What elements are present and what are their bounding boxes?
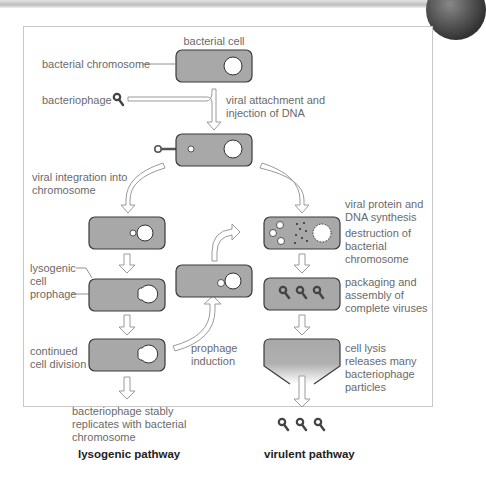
dividing-cell [89,339,165,371]
label-viral-protein-1: viral protein and [345,198,423,210]
infected-cell [155,134,252,166]
label-viral-protein-2: DNA synthesis [345,211,417,223]
label-stable-3: chromosome [72,431,136,443]
label-destruction-2: bacterial [345,240,387,252]
down-arrow [119,377,135,399]
label-lysogenic-cell-2: cell [30,275,47,287]
label-viral-integration-2: chromosome [32,184,96,196]
down-arrow [119,254,135,273]
lysogenic-pathway-title: lysogenic pathway [78,448,181,460]
label-continued-2: cell division [30,358,86,370]
label-viral-attachment-1: viral attachment and [226,94,325,106]
synthesis-cell [264,217,340,249]
label-lysis-4: particles [345,381,386,393]
label-induction-2: induction [191,355,235,367]
label-continued-1: continued [30,345,78,357]
label-destruction-1: destruction of [345,227,412,239]
bacterial-cell [176,50,252,82]
released-phages [279,419,324,430]
virulent-pathway-title: virulent pathway [264,448,355,460]
label-induction-1: prophage [191,342,238,354]
leader-line [76,268,92,278]
label-viral-attachment-2: injection of DNA [226,107,306,119]
label-bacteriophage: bacteriophage [42,94,112,106]
label-prophage: prophage [30,288,77,300]
label-packaging-1: packaging and [345,276,417,288]
lysogenic-cell [89,279,165,311]
label-stable-1: bacteriophage stably [72,405,174,417]
attachment-arrow [128,89,221,130]
down-arrow [294,315,310,335]
assembly-cell [264,278,340,310]
integration-arrow [121,163,165,213]
induction-to-lytic-arrow [212,224,240,261]
integrated-cell [89,217,165,249]
label-viral-integration-1: viral integration into [32,171,127,183]
lytic-arrow [260,163,309,213]
label-bacterial-cell: bacterial cell [183,35,244,47]
label-lysogenic-cell-1: lysogenic [30,262,76,274]
label-packaging-2: assembly of [345,289,405,301]
down-arrow [119,315,135,335]
induced-cell [176,265,252,297]
label-bacterial-chromosome: bacterial chromosome [42,58,150,70]
down-arrow [294,254,310,273]
label-lysis-1: cell lysis [345,342,386,354]
label-lysis-3: bacteriophage [345,368,415,380]
label-packaging-3: complete viruses [345,302,428,314]
label-stable-2: replicates with bacterial [72,418,186,430]
label-destruction-3: chromosome [345,253,409,265]
label-lysis-2: releases many [345,355,417,367]
bacteriophage-icon [114,94,123,105]
